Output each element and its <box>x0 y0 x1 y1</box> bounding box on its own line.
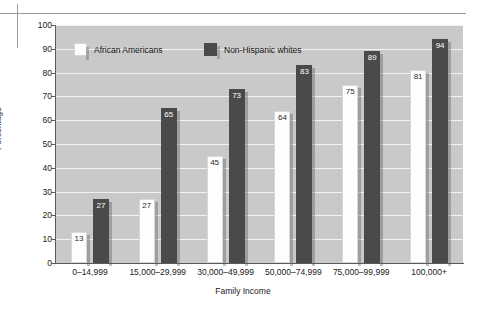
y-tick-label: 70 <box>6 92 52 101</box>
bar-african-americans: 81 <box>410 70 426 263</box>
y-tick-label: 80 <box>6 69 52 78</box>
bar-fill <box>342 85 358 264</box>
x-axis-label: Family Income <box>0 286 486 296</box>
chart-figure: Percentage 0102030405060708090100 132727… <box>0 0 486 312</box>
x-axis-line <box>55 263 464 264</box>
gridline <box>56 192 463 193</box>
gridline <box>56 215 463 216</box>
bar-value-label: 27 <box>139 202 155 210</box>
gridline <box>56 96 463 97</box>
bar-value-label: 83 <box>296 68 312 76</box>
bar-african-americans: 64 <box>274 111 290 263</box>
decorative-top-rule <box>0 13 466 14</box>
bar-value-label: 94 <box>432 42 448 50</box>
gridline <box>56 49 463 50</box>
bar-fill <box>296 65 312 263</box>
x-tick-label: 100,000+ <box>379 268 479 277</box>
bar-non-hispanic-whites: 94 <box>432 39 448 263</box>
y-tick-label: 10 <box>6 235 52 244</box>
bar-shadow <box>290 114 293 266</box>
bar-value-label: 75 <box>342 88 358 96</box>
bar-african-americans: 27 <box>139 199 155 263</box>
gridline <box>56 144 463 145</box>
bar-fill <box>274 111 290 263</box>
bar-value-label: 73 <box>229 92 245 100</box>
bar-african-americans: 45 <box>207 156 223 263</box>
bar-non-hispanic-whites: 83 <box>296 65 312 263</box>
bar-fill <box>229 89 245 263</box>
bar-value-label: 89 <box>364 54 380 62</box>
bar-fill <box>364 51 380 263</box>
bar-shadow <box>448 42 451 266</box>
bar-fill <box>207 156 223 263</box>
bar-non-hispanic-whites: 65 <box>161 108 177 263</box>
bar-shadow <box>87 235 90 266</box>
bar-shadow <box>358 88 361 267</box>
bar-african-americans: 75 <box>342 85 358 264</box>
bar-fill <box>432 39 448 263</box>
bar-shadow <box>177 111 180 266</box>
y-tick-label: 100 <box>6 21 52 30</box>
y-tick-label: 60 <box>6 116 52 125</box>
bar-non-hispanic-whites: 73 <box>229 89 245 263</box>
gridline <box>56 239 463 240</box>
y-tick-label: 50 <box>6 140 52 149</box>
bar-value-label: 81 <box>410 73 426 81</box>
bar-value-label: 45 <box>207 159 223 167</box>
bar-shadow <box>426 73 429 266</box>
bar-value-label: 27 <box>93 202 109 210</box>
bar-value-label: 64 <box>274 114 290 122</box>
bar-shadow <box>380 54 383 266</box>
gridline <box>56 73 463 74</box>
y-tick-label: 40 <box>6 164 52 173</box>
bar-non-hispanic-whites: 89 <box>364 51 380 263</box>
y-tick-label: 30 <box>6 188 52 197</box>
y-axis-line <box>55 25 56 264</box>
y-tick-label: 90 <box>6 45 52 54</box>
bar-value-label: 13 <box>71 235 87 243</box>
plot-area: 132727654573648375898194 African America… <box>56 25 463 263</box>
bar-shadow <box>155 202 158 266</box>
legend-label: African Americans <box>94 45 163 55</box>
gridline <box>56 120 463 121</box>
y-tick-label: 20 <box>6 211 52 220</box>
bar-fill <box>161 108 177 263</box>
y-tick-label: 0 <box>6 259 52 268</box>
bar-shadow <box>223 159 226 266</box>
gridline <box>56 168 463 169</box>
bar-non-hispanic-whites: 27 <box>93 199 109 263</box>
bar-fill <box>410 70 426 263</box>
y-axis-ticks: 0102030405060708090100 <box>0 0 52 312</box>
gridline <box>56 25 463 26</box>
bar-african-americans: 13 <box>71 232 87 263</box>
legend-label: Non-Hispanic whites <box>224 45 301 55</box>
bar-shadow <box>245 92 248 266</box>
bar-shadow <box>109 202 112 266</box>
bar-shadow <box>312 68 315 266</box>
bar-value-label: 65 <box>161 111 177 119</box>
